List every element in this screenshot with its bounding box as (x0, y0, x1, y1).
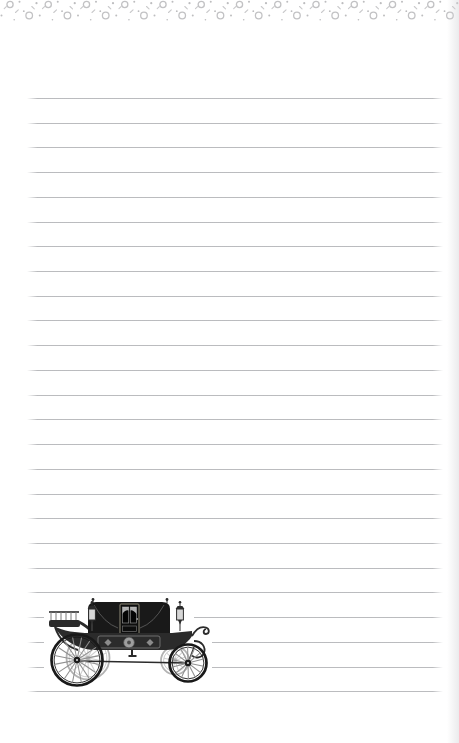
ruled-line (27, 147, 443, 148)
ruled-line (27, 691, 443, 692)
ruled-line (27, 271, 443, 272)
ruled-line (27, 444, 443, 445)
ruled-line (27, 395, 443, 396)
carriage-illustration (44, 597, 212, 689)
ruled-line (27, 320, 443, 321)
ruled-line (27, 419, 443, 420)
cabin-door (120, 604, 139, 634)
ruled-line (27, 246, 443, 247)
ruled-line (27, 370, 443, 371)
ruled-line (27, 592, 443, 593)
ruled-line (27, 494, 443, 495)
ruled-line (27, 543, 443, 544)
ruled-line (27, 345, 443, 346)
ruled-line (27, 172, 443, 173)
ruled-line (27, 296, 443, 297)
ruled-line (27, 123, 443, 124)
ruled-line (27, 222, 443, 223)
ruled-line (27, 98, 443, 99)
ruled-line (27, 518, 443, 519)
notebook-page (0, 0, 459, 743)
ruled-line (27, 469, 443, 470)
ruled-line (27, 197, 443, 198)
ruled-line (27, 568, 443, 569)
